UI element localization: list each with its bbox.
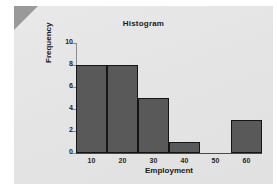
bar-10 — [76, 65, 107, 153]
x-tick-label: 60 — [243, 157, 251, 164]
x-tick-label: 30 — [150, 157, 158, 164]
y-tick-label: 2 — [69, 126, 73, 133]
y-tick-label: 6 — [69, 82, 73, 89]
y-tick-label: 0 — [69, 148, 73, 155]
x-axis-title: Employment — [76, 166, 262, 175]
figure-card: Histogram Frequency Employment 0246810 1… — [14, 6, 273, 184]
y-tick-label: 10 — [65, 38, 73, 45]
chart-figure: Histogram Frequency Employment 0246810 1… — [14, 6, 273, 184]
bar-20 — [107, 65, 138, 153]
bar-60 — [231, 120, 262, 153]
bar-30 — [138, 98, 169, 153]
x-axis-line — [76, 153, 262, 154]
y-axis-title: Frequency — [44, 23, 53, 63]
x-tick-label: 40 — [181, 157, 189, 164]
x-tick-label: 10 — [88, 157, 96, 164]
x-tick-label: 50 — [212, 157, 220, 164]
plot-area: 0246810 102030405060 — [76, 43, 262, 153]
y-tick-label: 8 — [69, 60, 73, 67]
slide-canvas: Histogram Frequency Employment 0246810 1… — [0, 0, 277, 195]
x-tick-label: 20 — [119, 157, 127, 164]
y-tick-label: 4 — [69, 104, 73, 111]
bar-40 — [169, 142, 200, 153]
